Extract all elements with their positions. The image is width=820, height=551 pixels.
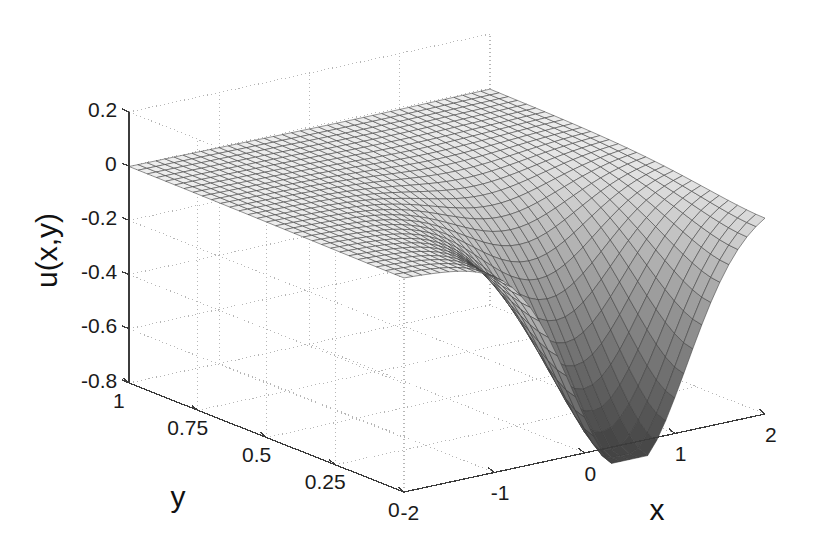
y-tick-label: 0.5 [242,444,271,465]
y-tick-label: 1 [113,390,125,411]
z-tick-label: -0.8 [81,370,117,391]
z-tick-label: -0.4 [81,261,117,282]
x-tick-label: -1 [491,482,510,503]
x-tick-label: 2 [765,424,777,445]
z-tick-label: -0.6 [81,315,117,336]
surface-plot-figure: 0.2 0 -0.2 -0.4 -0.6 -0.8 1 0.75 0.5 0.2… [0,0,820,551]
y-tick-label: 0.25 [305,471,346,492]
surface-mesh [129,89,765,463]
z-tick-label: 0.2 [88,99,117,120]
y-axis-title: y [171,482,186,512]
x-tick-label: 0 [585,463,597,484]
z-tick-label: -0.2 [81,207,117,228]
x-axis-title: x [650,495,665,525]
x-tick-label: -2 [401,502,420,523]
surface-plot-canvas [0,0,820,551]
z-tick-label: 0 [105,153,117,174]
y-tick-label: 0 [388,499,400,520]
y-tick-label: 0.75 [167,417,208,438]
x-tick-label: 1 [675,443,687,464]
z-axis-title: u(x,y) [32,213,62,288]
